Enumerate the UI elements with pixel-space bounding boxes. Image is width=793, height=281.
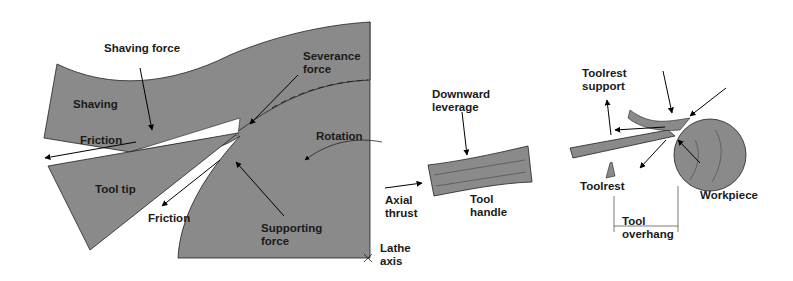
label-workpiece: Workpiece xyxy=(700,189,758,202)
label-toolrest-support: Toolrest support xyxy=(582,67,627,93)
label-friction-bottom: Friction xyxy=(148,212,190,225)
label-shaving: Shaving xyxy=(73,98,118,111)
label-tool-overhang: Tool overhang xyxy=(622,215,674,241)
label-lathe-axis: Lathe axis xyxy=(380,242,411,268)
label-severance-force: Severance force xyxy=(303,50,361,76)
tool-handle-panel xyxy=(385,112,532,196)
overview-panel xyxy=(570,71,746,232)
toolrest-shape xyxy=(606,162,615,178)
workpiece-circle xyxy=(674,119,746,191)
label-shaving-force: Shaving force xyxy=(104,42,180,55)
woodturning-forces-diagram: Shaving force Severance force Shaving Fr… xyxy=(0,0,793,281)
label-downward-leverage: Downward leverage xyxy=(432,88,490,114)
label-toolrest: Toolrest xyxy=(580,180,625,193)
label-tool-handle: Tool handle xyxy=(470,193,507,219)
tool-shaft xyxy=(570,130,675,158)
label-tool-tip: Tool tip xyxy=(95,183,136,196)
tool-handle-shape xyxy=(428,146,532,196)
label-axial-thrust: Axial thrust xyxy=(385,194,418,220)
label-rotation: Rotation xyxy=(316,130,363,143)
label-supporting-force: Supporting force xyxy=(261,222,322,248)
label-friction-top: Friction xyxy=(80,134,122,147)
